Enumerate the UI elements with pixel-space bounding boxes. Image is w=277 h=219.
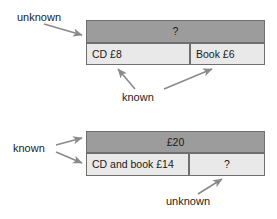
diagram-canvas: ? CD £8 Book £6 £20 CD and book £14 ? un… <box>0 0 277 219</box>
arrow-unknown-to-remainder <box>198 179 222 194</box>
model-1-part-book-label: Book £6 <box>196 49 235 60</box>
model-2-part-remainder-label: ? <box>224 159 230 170</box>
model-1-total-label: ? <box>173 26 179 37</box>
model-2-part-remainder: ? <box>189 153 265 176</box>
arrow-known-to-total-2 <box>56 138 82 145</box>
arrow-known-to-book <box>164 69 212 89</box>
arrow-known-to-cd <box>118 69 135 89</box>
model-2-total-label: £20 <box>167 137 185 148</box>
annotation-known-bottom: known <box>13 143 45 154</box>
arrow-known-to-cdbook <box>56 152 82 163</box>
arrow-unknown-to-total-1 <box>44 24 82 35</box>
model-1-part-book: Book £6 <box>190 43 265 65</box>
model-2-total-bar: £20 <box>86 131 265 153</box>
annotation-unknown-top: unknown <box>17 12 61 23</box>
model-1-part-cd-label: CD £8 <box>92 49 122 60</box>
annotation-unknown-bottom: unknown <box>166 196 210 207</box>
model-1-part-cd: CD £8 <box>86 43 190 65</box>
model-2-part-cd-and-book: CD and book £14 <box>86 153 189 176</box>
annotation-known-top: known <box>122 92 154 103</box>
model-1-total-bar: ? <box>86 20 265 43</box>
model-2-part-cd-and-book-label: CD and book £14 <box>92 159 174 170</box>
